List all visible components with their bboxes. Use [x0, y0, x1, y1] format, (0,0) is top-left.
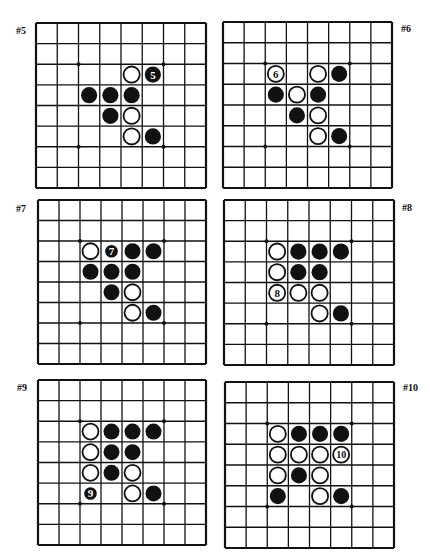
star-point-icon: [348, 62, 352, 66]
black-stone-icon: [291, 467, 307, 483]
white-stone-icon: [312, 305, 328, 321]
black-stone-icon: [290, 264, 306, 280]
white-stone-icon: [125, 284, 141, 300]
move-number: 5: [150, 69, 156, 81]
black-stone-icon: [146, 243, 162, 259]
black-stone-icon: [312, 426, 328, 442]
board-label: #6: [401, 23, 411, 34]
star-point-icon: [350, 239, 354, 243]
black-stone-icon: [310, 87, 326, 103]
move-number: 7: [109, 245, 115, 257]
black-stone-icon: [102, 108, 118, 124]
black-stone-icon: [333, 488, 349, 504]
star-point-icon: [265, 239, 269, 243]
go-board: 9: [38, 380, 206, 545]
white-stone-icon: [83, 444, 99, 460]
black-stone-icon: [125, 264, 141, 280]
white-stone-icon: [291, 447, 307, 463]
black-stone-icon: [333, 305, 349, 321]
star-point-icon: [348, 145, 352, 149]
board-label: #8: [402, 202, 412, 213]
star-point-icon: [162, 321, 166, 325]
black-stone-icon: [104, 284, 120, 300]
go-board: 7: [38, 200, 206, 364]
white-stone-icon: [312, 447, 328, 463]
black-stone-icon: [291, 426, 307, 442]
black-stone-icon: [268, 87, 284, 103]
black-stone-icon: [104, 264, 120, 280]
go-board: 5: [36, 23, 206, 188]
black-stone-icon: [331, 128, 347, 144]
black-stone-icon: 7: [105, 245, 118, 258]
move-number: 9: [88, 487, 94, 499]
board-label: #7: [16, 203, 26, 214]
black-stone-icon: [104, 444, 120, 460]
star-point-icon: [350, 505, 354, 509]
star-point-icon: [78, 502, 82, 506]
black-stone-icon: [270, 488, 286, 504]
star-point-icon: [263, 62, 267, 66]
white-stone-icon: [270, 447, 286, 463]
black-stone-icon: [102, 87, 118, 103]
black-stone-icon: [312, 264, 328, 280]
white-stone-icon: [124, 128, 140, 144]
star-point-icon: [78, 239, 82, 243]
white-stone-icon: [270, 467, 286, 483]
black-stone-icon: [331, 66, 347, 82]
white-stone-icon: [310, 107, 326, 123]
black-stone-icon: [104, 424, 120, 440]
white-stone-icon: [289, 87, 305, 103]
board-label: #5: [16, 25, 26, 36]
star-point-icon: [265, 322, 269, 326]
black-stone-icon: [290, 243, 306, 259]
black-stone-icon: [312, 243, 328, 259]
white-stone-icon: [124, 66, 140, 82]
black-stone-icon: [125, 243, 141, 259]
board-label: #9: [17, 382, 27, 393]
white-stone-icon: [125, 305, 141, 321]
white-stone-icon: 6: [268, 66, 284, 82]
black-stone-icon: [146, 485, 162, 501]
white-stone-icon: [83, 243, 99, 259]
white-stone-icon: [125, 485, 141, 501]
move-number: 10: [336, 449, 346, 460]
move-number: 6: [273, 68, 279, 80]
white-stone-icon: [312, 467, 328, 483]
white-stone-icon: [83, 465, 99, 481]
white-stone-icon: 8: [269, 285, 285, 301]
star-point-icon: [162, 62, 166, 66]
star-point-icon: [78, 321, 82, 325]
white-stone-icon: [312, 488, 328, 504]
black-stone-icon: [83, 264, 99, 280]
white-stone-icon: [269, 264, 285, 280]
white-stone-icon: [125, 465, 141, 481]
white-stone-icon: [83, 424, 99, 440]
black-stone-icon: [146, 305, 162, 321]
star-point-icon: [77, 62, 81, 66]
black-stone-icon: [333, 243, 349, 259]
white-stone-icon: [269, 243, 285, 259]
board-label: #10: [403, 382, 418, 393]
star-point-icon: [162, 239, 166, 243]
black-stone-icon: [124, 87, 140, 103]
star-point-icon: [162, 419, 166, 423]
star-point-icon: [350, 322, 354, 326]
go-board: 8: [224, 200, 394, 365]
black-stone-icon: 5: [145, 66, 161, 82]
black-stone-icon: [104, 465, 120, 481]
white-stone-icon: [310, 128, 326, 144]
star-point-icon: [265, 422, 269, 426]
black-stone-icon: [146, 424, 162, 440]
star-point-icon: [78, 419, 82, 423]
star-point-icon: [265, 505, 269, 509]
white-stone-icon: [270, 426, 286, 442]
black-stone-icon: [81, 87, 97, 103]
black-stone-icon: [145, 128, 161, 144]
white-stone-icon: [290, 285, 306, 301]
go-board: 6: [223, 22, 392, 188]
star-point-icon: [263, 145, 267, 149]
white-stone-icon: 10: [333, 447, 349, 463]
move-number: 8: [274, 287, 280, 299]
black-stone-icon: [333, 426, 349, 442]
star-point-icon: [77, 145, 81, 149]
